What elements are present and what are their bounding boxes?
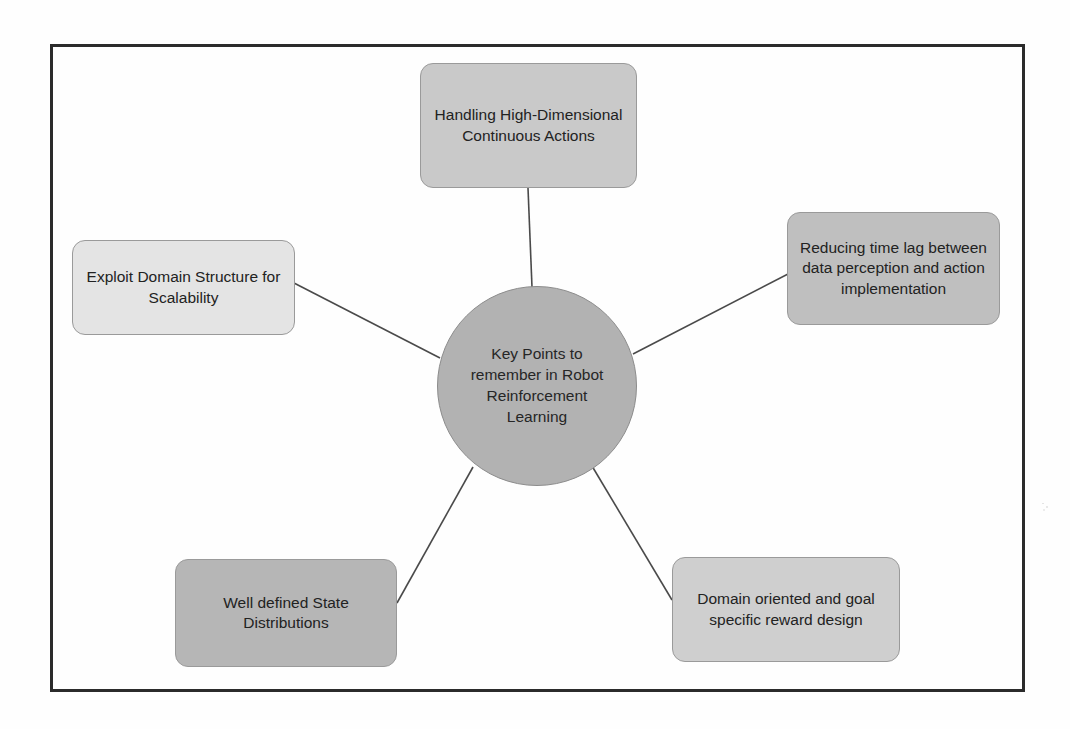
node-label: Exploit Domain Structure for Scalability: [83, 267, 284, 308]
node-reducing-time-lag[interactable]: Reducing time lag between data perceptio…: [787, 212, 1000, 325]
node-label: Handling High-Dimensional Continuous Act…: [431, 105, 626, 146]
scan-artifact: [1040, 500, 1050, 512]
diagram-canvas: Key Points to remember in Robot Reinforc…: [0, 0, 1070, 729]
node-label: Reducing time lag between data perceptio…: [798, 238, 989, 299]
central-node-key-points[interactable]: Key Points to remember in Robot Reinforc…: [437, 286, 637, 486]
node-well-defined-state-distributions[interactable]: Well defined State Distributions: [175, 559, 397, 667]
central-node-label: Key Points to remember in Robot Reinforc…: [456, 344, 618, 428]
node-domain-oriented-reward-design[interactable]: Domain oriented and goal specific reward…: [672, 557, 900, 662]
node-exploit-domain-structure[interactable]: Exploit Domain Structure for Scalability: [72, 240, 295, 335]
node-handling-high-dimensional-continuous-actions[interactable]: Handling High-Dimensional Continuous Act…: [420, 63, 637, 188]
node-label: Well defined State Distributions: [186, 593, 386, 634]
node-label: Domain oriented and goal specific reward…: [683, 589, 889, 630]
